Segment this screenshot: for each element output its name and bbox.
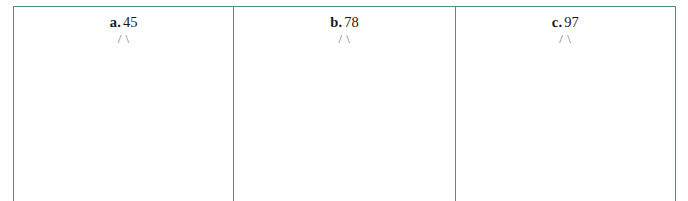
problem-heading-a: a.45 (14, 14, 233, 30)
problem-heading-c: c.97 (456, 14, 675, 30)
factor-branch-mark-c: / \ (456, 31, 675, 46)
factor-branch-mark-b: / \ (234, 31, 454, 46)
problem-label-a: a. (110, 14, 121, 30)
problem-label-c: c. (552, 14, 562, 30)
problem-number-b: 78 (344, 14, 359, 30)
problem-number-c: 97 (564, 14, 579, 30)
worksheet-page: a.45 / \ b.78 / \ c.97 / \ (0, 0, 688, 201)
factor-branch-mark-a: / \ (14, 31, 233, 46)
factor-tree-cell-b[interactable]: b.78 / \ (233, 7, 454, 201)
factor-tree-cell-a[interactable]: a.45 / \ (14, 7, 233, 201)
factor-tree-cell-c[interactable]: c.97 / \ (455, 7, 675, 201)
problem-label-b: b. (330, 14, 342, 30)
problem-number-a: 45 (123, 14, 138, 30)
problem-heading-b: b.78 (234, 14, 454, 30)
factor-tree-table: a.45 / \ b.78 / \ c.97 / \ (13, 6, 676, 201)
